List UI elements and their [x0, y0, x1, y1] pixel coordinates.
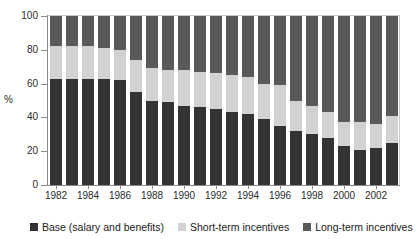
bar-segment-short-term [210, 73, 222, 108]
bar-1986 [114, 16, 126, 185]
bar-segment-short-term [370, 124, 382, 148]
bar-segment-short-term [274, 85, 286, 126]
bar-1990 [178, 16, 190, 185]
bar-segment-base [322, 138, 334, 185]
bar-segment-long-term [290, 16, 302, 101]
bar-segment-long-term [146, 16, 158, 68]
x-tick [120, 185, 121, 189]
x-tick [216, 185, 217, 189]
bar-segment-long-term [354, 16, 366, 122]
bar-1988 [146, 16, 158, 185]
legend-item: Base (salary and benefits) [30, 221, 164, 233]
bar-segment-base [178, 106, 190, 185]
y-tick [41, 185, 47, 186]
x-tick-label: 1994 [232, 190, 264, 201]
y-tick-label: 60 [4, 79, 38, 89]
bar-segment-base [354, 150, 366, 185]
bar-1998 [306, 16, 318, 185]
bar-segment-base [386, 143, 398, 185]
bar-segment-base [338, 146, 350, 185]
bar-segment-short-term [82, 46, 94, 78]
bar-segment-short-term [178, 70, 190, 105]
legend-swatch-long-term [303, 223, 311, 231]
bar-segment-short-term [290, 101, 302, 131]
y-tick-label: 40 [4, 112, 38, 122]
bar-2000 [338, 16, 350, 185]
legend-item: Short-term incentives [178, 221, 289, 233]
y-tick [41, 84, 47, 85]
bar-1992 [210, 16, 222, 185]
bar-segment-short-term [114, 50, 126, 80]
bar-segment-short-term [226, 75, 238, 112]
bar-segment-long-term [210, 16, 222, 73]
bar-segment-base [50, 79, 62, 185]
bar-segment-short-term [66, 46, 78, 78]
y-tick [41, 50, 47, 51]
bar-1984 [82, 16, 94, 185]
bar-segment-short-term [146, 68, 158, 100]
y-tick-label: 100 [4, 11, 38, 21]
bar-1995 [258, 16, 270, 185]
x-tick [280, 185, 281, 189]
bar-segment-base [290, 131, 302, 185]
bar-segment-long-term [82, 16, 94, 46]
bar-1982 [50, 16, 62, 185]
bar-2002 [370, 16, 382, 185]
bar-segment-base [242, 114, 254, 185]
bar-segment-short-term [50, 46, 62, 78]
chart-legend: Base (salary and benefits)Short-term inc… [30, 221, 417, 233]
bar-segment-base [66, 79, 78, 185]
bar-segment-base [210, 109, 222, 185]
bar-segment-long-term [274, 16, 286, 85]
bar-segment-short-term [258, 84, 270, 119]
bar-2001 [354, 16, 366, 185]
x-tick-label: 1992 [200, 190, 232, 201]
bar-segment-long-term [114, 16, 126, 50]
y-tick [41, 117, 47, 118]
bar-segment-base [258, 119, 270, 185]
y-tick-label: 80 [4, 45, 38, 55]
bar-segment-long-term [50, 16, 62, 46]
bar-segment-base [130, 92, 142, 185]
bar-segment-long-term [66, 16, 78, 46]
bar-1993 [226, 16, 238, 185]
bar-segment-long-term [258, 16, 270, 84]
bar-segment-long-term [98, 16, 110, 48]
bar-1996 [274, 16, 286, 185]
x-tick-label: 1986 [104, 190, 136, 201]
x-tick [152, 185, 153, 189]
x-tick-label: 2000 [328, 190, 360, 201]
bar-segment-long-term [194, 16, 206, 72]
y-tick-label: 0 [4, 180, 38, 190]
bar-segment-long-term [242, 16, 254, 77]
x-axis-line [47, 185, 400, 186]
y-tick [41, 151, 47, 152]
x-tick-label: 1984 [72, 190, 104, 201]
bar-segment-base [162, 102, 174, 185]
bar-1999 [322, 16, 334, 185]
y-tick [41, 16, 47, 17]
legend-swatch-base [30, 223, 38, 231]
y-tick-label: 20 [4, 146, 38, 156]
legend-swatch-short-term [178, 223, 186, 231]
x-tick-label: 1998 [296, 190, 328, 201]
legend-label: Long-term incentives [315, 221, 412, 233]
bar-1994 [242, 16, 254, 185]
legend-item: Long-term incentives [303, 221, 412, 233]
bar-segment-base [146, 101, 158, 186]
bar-segment-base [306, 134, 318, 185]
x-tick [56, 185, 57, 189]
bar-segment-long-term [162, 16, 174, 70]
bar-segment-base [226, 112, 238, 185]
bar-segment-short-term [162, 70, 174, 102]
bar-segment-long-term [338, 16, 350, 122]
x-tick [248, 185, 249, 189]
bar-segment-base [114, 80, 126, 185]
bar-segment-base [194, 107, 206, 185]
bar-1989 [162, 16, 174, 185]
legend-label: Base (salary and benefits) [42, 221, 164, 233]
legend-label: Short-term incentives [190, 221, 289, 233]
bar-segment-short-term [306, 106, 318, 135]
bar-segment-short-term [338, 122, 350, 146]
